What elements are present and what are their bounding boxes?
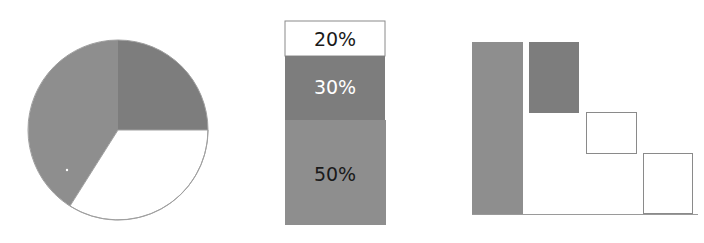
waterfall-bar-3 [644,154,693,214]
pie-chart [28,40,208,220]
stack-label-middle: 30% [314,76,356,98]
figure-canvas: 20% 30% 50% [0,0,704,243]
waterfall-chart [472,42,698,215]
pie-speck [66,169,68,171]
stacked-bar-chart: 20% 30% 50% [285,21,386,225]
pie-slice-dark [118,40,208,130]
stack-label-top: 20% [314,28,356,50]
waterfall-bar-1 [529,42,579,113]
stack-label-bottom: 50% [314,163,356,185]
waterfall-bar-total [472,42,523,214]
waterfall-bar-2 [587,113,637,154]
